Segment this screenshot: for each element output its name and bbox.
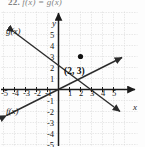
x-tick-3: 3 [90, 88, 94, 98]
y-tick-4: 4 [50, 41, 54, 51]
exercise-header: 22. f(x) = g(x) [8, 0, 62, 7]
intersection-point-label: (2, 3) [64, 66, 85, 76]
x-tick--2: -2 [34, 88, 41, 98]
intersection-point [78, 54, 83, 59]
x-axis-label: x [133, 102, 137, 112]
y-tick--1: -1 [47, 96, 54, 106]
y-tick--5: -5 [47, 140, 54, 147]
y-tick-3: 3 [50, 52, 54, 62]
x-tick-5: 5 [112, 88, 116, 98]
grid-lines [2, 12, 138, 146]
x-tick--3: -3 [23, 88, 30, 98]
y-tick--4: -4 [47, 129, 54, 139]
y-tick-2: 2 [50, 63, 54, 73]
curve-label-f: f(x) [6, 106, 19, 116]
y-tick-1: 1 [50, 74, 54, 84]
x-tick-4: 4 [101, 88, 105, 98]
x-tick-1: 1 [68, 88, 72, 98]
y-tick-5: 5 [50, 30, 54, 40]
exercise-number: 22. [8, 0, 20, 7]
figure-root: 22. f(x) = g(x) [0, 0, 145, 147]
x-tick-2: 2 [79, 88, 83, 98]
curve-label-g: g(x) [6, 26, 21, 36]
x-tick--4: -4 [12, 88, 19, 98]
exercise-equation: f(x) = g(x) [22, 0, 62, 7]
y-axis-label: y [52, 18, 56, 28]
graph-canvas [0, 10, 145, 147]
x-tick--5: -5 [1, 88, 8, 98]
coordinate-plot: y x [0, 10, 145, 147]
y-tick--2: -2 [47, 107, 54, 117]
y-tick--3: -3 [47, 118, 54, 128]
